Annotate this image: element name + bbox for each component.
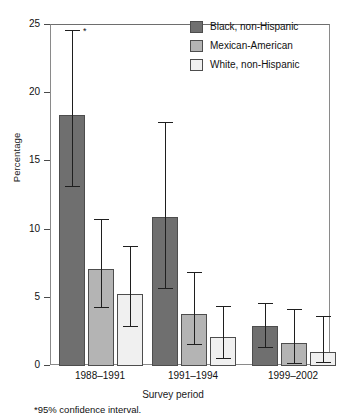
y-axis-tick-label: 20 [0,87,40,97]
error-bar-cap-upper [258,303,273,304]
legend-swatch-icon [190,59,203,71]
x-axis-tick-label: 1999–2002 [238,370,346,381]
error-bar-cap-lower [158,288,173,289]
error-bar-cap-upper [94,219,109,220]
error-bar-line [130,246,131,326]
chart-footnote: *95% confidence interval. [34,404,141,415]
error-bar-line [265,303,266,347]
error-bar-line [294,309,295,364]
error-bar-cap-upper [287,309,302,310]
error-bar-line [323,316,324,362]
error-bar-line [223,306,224,358]
chart-legend: Black, non-HispanicMexican-AmericanWhite… [190,18,328,75]
error-bar-cap-lower [287,363,302,364]
y-axis-tick-label: 15 [0,155,40,165]
error-bar-line [101,219,102,308]
error-bar-line [194,272,195,344]
error-bar-cap-lower [123,326,138,327]
error-bar-cap-upper [123,246,138,247]
error-bar-cap-lower [94,307,109,308]
x-axis-tick-label: 1991–1994 [138,370,248,381]
legend-item-label: Mexican-American [210,40,293,51]
legend-item: White, non-Hispanic [190,56,328,73]
y-axis-tick [44,365,50,366]
error-bar-cap-lower [216,358,231,359]
legend-item-label: White, non-Hispanic [210,59,299,70]
error-bar-cap-upper [316,316,331,317]
error-bar-cap-upper [158,122,173,123]
error-bar-cap-lower [65,186,80,187]
error-bar-line [72,30,73,185]
legend-item: Mexican-American [190,37,328,54]
confidence-interval-asterisk: * [83,27,87,36]
plot-area [50,24,330,365]
bar-chart-figure: Percentage 0510152025 * 1988–19911991–19… [0,0,346,420]
error-bar-cap-lower [316,362,331,363]
legend-swatch-icon [190,21,203,33]
error-bar-cap-lower [187,344,202,345]
error-bar-cap-upper [216,306,231,307]
error-bar-cap-lower [258,347,273,348]
error-bar-line [165,122,166,288]
error-bar-cap-upper [65,30,80,31]
x-axis-label: Survey period [0,389,346,400]
y-axis-tick-label: 5 [0,292,40,302]
legend-item: Black, non-Hispanic [190,18,328,35]
legend-item-label: Black, non-Hispanic [210,21,298,32]
legend-swatch-icon [190,40,203,52]
y-axis-tick-label: 10 [0,224,40,234]
error-bar-cap-upper [187,272,202,273]
y-axis-tick-label: 0 [0,360,40,370]
y-axis-tick-label: 25 [0,19,40,29]
